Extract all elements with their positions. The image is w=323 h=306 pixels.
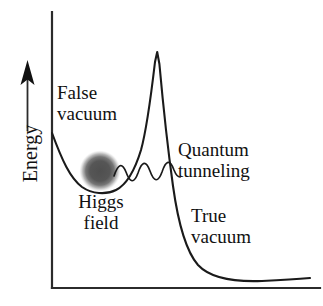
label-false-vacuum-line1: False <box>57 82 117 103</box>
label-quantum-tunneling-line2: tunneling <box>178 160 250 181</box>
label-true-vacuum: True vacuum <box>191 205 251 247</box>
label-quantum-tunneling-line1: Quantum <box>178 139 250 160</box>
label-false-vacuum-line2: vacuum <box>57 103 117 124</box>
higgs-field-ball <box>79 150 121 192</box>
label-true-vacuum-line2: vacuum <box>191 226 251 247</box>
label-higgs-field-line1: Higgs <box>59 191 143 212</box>
diagram-canvas <box>0 0 323 306</box>
label-true-vacuum-line1: True <box>191 205 251 226</box>
label-quantum-tunneling: Quantum tunneling <box>178 139 250 181</box>
higgs-potential-diagram: Energy False vacuum Higgs field Quantum … <box>0 0 323 306</box>
y-axis-label: Energy <box>19 99 42 209</box>
label-false-vacuum: False vacuum <box>57 82 117 124</box>
y-axis-label-text: Energy <box>19 125 41 182</box>
label-higgs-field-line2: field <box>59 212 143 233</box>
label-higgs-field: Higgs field <box>59 191 143 233</box>
